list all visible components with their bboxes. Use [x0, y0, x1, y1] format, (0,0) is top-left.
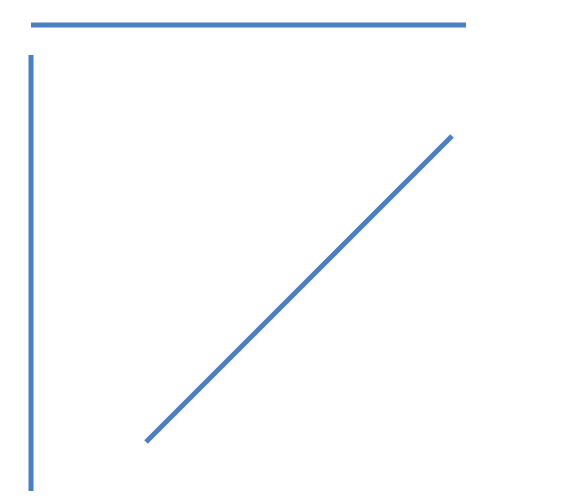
drawing-canvas — [0, 0, 563, 502]
diagonal-line — [146, 136, 452, 442]
